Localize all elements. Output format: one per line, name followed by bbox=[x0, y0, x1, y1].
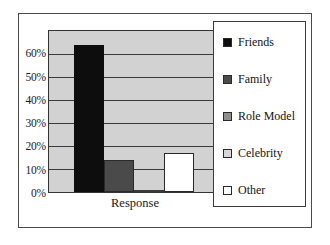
legend-item-friends[interactable]: Friends bbox=[223, 36, 274, 48]
bar-other[interactable] bbox=[164, 153, 194, 192]
legend-label-family: Family bbox=[238, 73, 272, 85]
y-tick-label-30: 30% bbox=[26, 117, 46, 129]
legend-label-friends: Friends bbox=[238, 36, 274, 48]
bar-family[interactable] bbox=[104, 160, 134, 192]
legend-label-role-model: Role Model bbox=[238, 110, 295, 122]
legend-swatch-role-model bbox=[223, 112, 232, 121]
legend-item-celebrity[interactable]: Celebrity bbox=[223, 147, 283, 159]
chart-legend: Friends Family Role Model Celebrity Othe… bbox=[213, 21, 306, 207]
legend-item-role-model[interactable]: Role Model bbox=[223, 110, 295, 122]
legend-swatch-other bbox=[223, 186, 232, 195]
legend-swatch-friends bbox=[223, 38, 232, 47]
legend-swatch-family bbox=[223, 75, 232, 84]
y-tick-label-10: 10% bbox=[26, 164, 46, 176]
bar-role-model[interactable] bbox=[134, 190, 164, 192]
bar-friends[interactable] bbox=[74, 45, 104, 192]
y-tick-label-40: 40% bbox=[26, 94, 46, 106]
plot-wrap bbox=[48, 30, 222, 193]
legend-item-other[interactable]: Other bbox=[223, 184, 265, 196]
x-axis-label: Response bbox=[48, 196, 222, 211]
y-tick-label-50: 50% bbox=[26, 71, 46, 83]
bars-layer bbox=[49, 31, 221, 192]
y-tick-label-60: 60% bbox=[26, 47, 46, 59]
y-tick-label-0: 0% bbox=[31, 187, 46, 199]
y-tick-label-20: 20% bbox=[26, 140, 46, 152]
y-axis: 60% 50% 40% 30% 20% 10% 0% bbox=[19, 30, 48, 193]
legend-label-celebrity: Celebrity bbox=[238, 147, 283, 159]
legend-item-family[interactable]: Family bbox=[223, 73, 272, 85]
legend-swatch-celebrity bbox=[223, 149, 232, 158]
chart-frame: 60% 50% 40% 30% 20% 10% 0% Response bbox=[18, 13, 312, 228]
plot-area bbox=[48, 30, 222, 193]
legend-label-other: Other bbox=[238, 184, 265, 196]
